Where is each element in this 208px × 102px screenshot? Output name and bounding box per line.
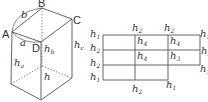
- bottom-edge-left: [11, 84, 41, 100]
- net-right-label: h1: [200, 63, 208, 75]
- net-cell-label: h3: [170, 50, 180, 62]
- edge-label-b: b: [21, 9, 27, 20]
- net-left-label: h1: [90, 71, 100, 83]
- net-cell-label: h4: [137, 50, 147, 62]
- net-cell-label: h4: [137, 35, 147, 47]
- net-grid: [103, 35, 200, 80]
- net-bottom-label: h1: [166, 79, 176, 91]
- height-label-ha: ha: [14, 57, 24, 69]
- edge-a-vertical: [11, 32, 12, 84]
- vertex-label-c: C: [73, 14, 81, 26]
- net-cell-label: h4: [170, 35, 180, 47]
- diagram-canvas: B C A D b a ha hb hc h h1 h2 h2 h1 h2 h2…: [0, 0, 208, 102]
- net-bottom-label: h2: [132, 83, 142, 95]
- height-label-hb: hb: [44, 43, 54, 55]
- net-top-label: h2: [132, 22, 142, 34]
- vertex-label-a: A: [2, 28, 10, 40]
- net-right-label: h2: [201, 45, 208, 57]
- net-left-label: h1: [90, 28, 100, 40]
- hidden-edge-bottom-left: [11, 66, 42, 84]
- vertex-label-b: B: [38, 0, 45, 9]
- net-left-label: h2: [90, 57, 100, 69]
- height-label-hc: hc: [74, 39, 84, 51]
- rectangular-prism: [11, 8, 72, 100]
- edge-label-a: a: [20, 37, 26, 48]
- height-label-h: h: [44, 71, 50, 82]
- net-left-label: h2: [90, 42, 100, 54]
- vertex-label-d: D: [32, 42, 40, 54]
- net-top-label: h2: [164, 22, 174, 34]
- net-right-label: h1: [200, 28, 208, 40]
